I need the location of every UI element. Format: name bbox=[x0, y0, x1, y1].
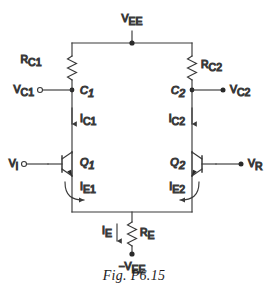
terminal-dot-vc2[interactable] bbox=[221, 88, 226, 93]
resistor-re bbox=[128, 222, 137, 246]
label-vi: Vi bbox=[9, 157, 18, 172]
supply-node-dot-vee-bottom bbox=[129, 251, 134, 256]
transistor-q2 bbox=[192, 152, 216, 176]
label-ie2: IE2 bbox=[169, 180, 185, 195]
label-rc2: RC2 bbox=[201, 58, 222, 73]
circuit-schematic: VEE RC1 C1 VC1 bbox=[0, 0, 268, 298]
transistor-q1 bbox=[48, 152, 72, 176]
terminal-open-circle-vi[interactable] bbox=[22, 162, 27, 167]
label-vc1: VC1 bbox=[14, 83, 35, 98]
supply-node-dot-vee-top bbox=[129, 40, 134, 45]
label-vc2: VC2 bbox=[230, 83, 251, 98]
figure-caption: Fig. P6.15 bbox=[0, 268, 268, 284]
label-ic2: IC2 bbox=[169, 112, 186, 127]
label-q1: Q1 bbox=[80, 156, 95, 171]
label-q2: Q2 bbox=[170, 156, 185, 171]
terminal-dot-vr[interactable] bbox=[239, 162, 244, 167]
label-ie1: IE1 bbox=[80, 180, 96, 195]
label-rc1: RC1 bbox=[20, 53, 41, 68]
resistor-rc1 bbox=[68, 56, 77, 80]
label-vee-top: VEE bbox=[121, 12, 142, 27]
label-ic1: IC1 bbox=[80, 112, 97, 127]
label-re: RE bbox=[140, 226, 155, 241]
label-ie: IE bbox=[102, 224, 112, 239]
terminal-open-circle-vc1[interactable] bbox=[38, 88, 43, 93]
label-node-c1: C1 bbox=[80, 84, 94, 99]
resistor-rc2 bbox=[188, 56, 197, 80]
label-vr: VR bbox=[248, 157, 263, 172]
label-node-c2: C2 bbox=[171, 84, 185, 99]
figure-canvas: VEE RC1 C1 VC1 bbox=[0, 0, 268, 298]
